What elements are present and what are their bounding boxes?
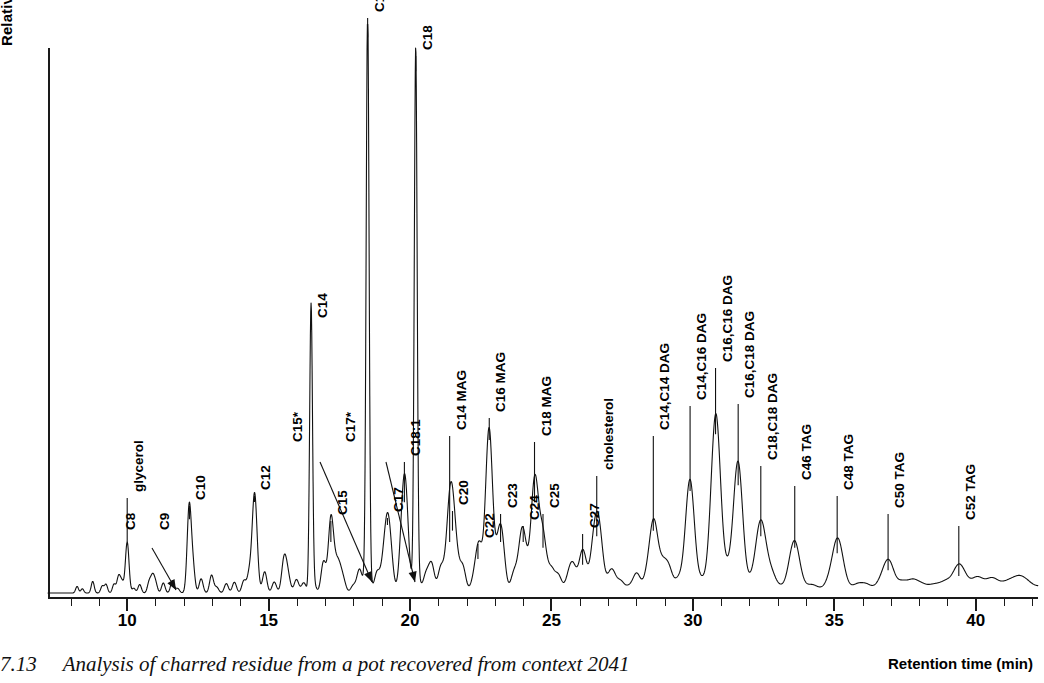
- x-tick-minor: [749, 599, 750, 606]
- peak-label: C27: [588, 503, 602, 528]
- peak-label: C17*: [344, 412, 358, 442]
- x-tick-minor: [1032, 599, 1033, 606]
- x-tick-minor: [240, 599, 241, 606]
- peak-label: C10: [194, 475, 208, 500]
- peak-label: C20: [457, 480, 471, 505]
- x-tick-minor: [353, 599, 354, 606]
- x-tick-minor: [778, 599, 779, 606]
- peak-label: C18: [421, 25, 435, 50]
- peak-leader-arrow: [386, 462, 415, 582]
- peak-label: C12: [259, 465, 273, 490]
- x-tick-minor: [1004, 599, 1005, 606]
- x-tick-minor: [495, 599, 496, 606]
- arrowhead-icon: [364, 571, 372, 582]
- x-tick-minor: [325, 599, 326, 606]
- peak-label: cholesterol: [602, 398, 616, 470]
- x-tick-minor: [99, 599, 100, 606]
- arrowhead-icon: [409, 571, 417, 582]
- peak-label: C16 MAG: [494, 352, 508, 412]
- peak-label: C15: [336, 490, 350, 515]
- x-tick-minor: [665, 599, 666, 606]
- peak-label: C22: [483, 513, 497, 538]
- caption-number: 7.13: [0, 652, 37, 676]
- figure-chromatogram: Relative intensity Retention time (min) …: [0, 0, 1044, 683]
- x-tick-major: [550, 599, 552, 611]
- x-tick-label: 10: [118, 611, 137, 631]
- peak-label: C25: [548, 483, 562, 508]
- x-tick-label: 25: [542, 611, 561, 631]
- x-tick-minor: [947, 599, 948, 606]
- peak-label: C14 MAG: [455, 370, 469, 430]
- x-axis-line: [48, 597, 1038, 599]
- peak-label: C18:1: [409, 419, 423, 456]
- peak-label: C15*: [291, 412, 305, 442]
- x-tick-minor: [212, 599, 213, 606]
- peak-label: glycerol: [132, 440, 146, 492]
- x-tick-minor: [806, 599, 807, 606]
- x-tick-major: [268, 599, 270, 611]
- y-axis-line: [48, 48, 50, 598]
- peak-label: C8: [124, 513, 138, 530]
- peak-label: C46 TAG: [800, 424, 814, 480]
- x-tick-minor: [891, 599, 892, 606]
- x-tick-minor: [636, 599, 637, 606]
- x-tick-major: [692, 599, 694, 611]
- peak-leader-arrow: [152, 548, 176, 590]
- peak-label: C48 TAG: [842, 434, 856, 490]
- x-tick-label: 20: [401, 611, 420, 631]
- peak-label: C50 TAG: [893, 452, 907, 508]
- peak-label: C24: [528, 495, 542, 520]
- peak-label: C14: [316, 293, 330, 318]
- peak-label: C52 TAG: [964, 464, 978, 520]
- x-tick-minor: [297, 599, 298, 606]
- x-tick-minor: [523, 599, 524, 606]
- x-tick-major: [409, 599, 411, 611]
- x-tick-label: 35: [825, 611, 844, 631]
- x-tick-minor: [438, 599, 439, 606]
- peak-label: C14,C16 DAG: [695, 313, 709, 400]
- peak-label: C18,C18 DAG: [766, 373, 780, 460]
- caption-text: Analysis of charred residue from a pot r…: [63, 652, 630, 676]
- x-tick-minor: [184, 599, 185, 606]
- x-tick-minor: [608, 599, 609, 606]
- peak-label: C9: [158, 513, 172, 530]
- x-axis-title: Retention time (min): [888, 655, 1033, 672]
- peak-leader-arrow: [320, 462, 372, 582]
- peak-label: C16: [373, 0, 387, 12]
- x-tick-minor: [580, 599, 581, 606]
- peak-label: C14,C14 DAG: [658, 343, 672, 430]
- y-axis-title: Relative intensity: [0, 0, 15, 46]
- x-tick-label: 30: [683, 611, 702, 631]
- peak-label: C16,C18 DAG: [743, 311, 757, 398]
- chromatogram-trace: [0, 0, 1044, 683]
- x-tick-minor: [71, 599, 72, 606]
- peak-label: C18 MAG: [540, 376, 554, 436]
- arrowhead-icon: [167, 579, 176, 590]
- peak-label: C17: [392, 487, 406, 512]
- x-tick-label: 40: [966, 611, 985, 631]
- peak-label: C16,C16 DAG: [721, 275, 735, 362]
- x-tick-minor: [467, 599, 468, 606]
- x-tick-major: [975, 599, 977, 611]
- x-tick-minor: [919, 599, 920, 606]
- x-tick-minor: [863, 599, 864, 606]
- figure-caption: 7.13 Analysis of charred residue from a …: [0, 652, 630, 677]
- x-tick-major: [126, 599, 128, 611]
- x-tick-minor: [382, 599, 383, 606]
- peak-label: C23: [506, 483, 520, 508]
- x-tick-major: [833, 599, 835, 611]
- x-tick-minor: [155, 599, 156, 606]
- x-tick-label: 15: [259, 611, 278, 631]
- x-tick-minor: [721, 599, 722, 606]
